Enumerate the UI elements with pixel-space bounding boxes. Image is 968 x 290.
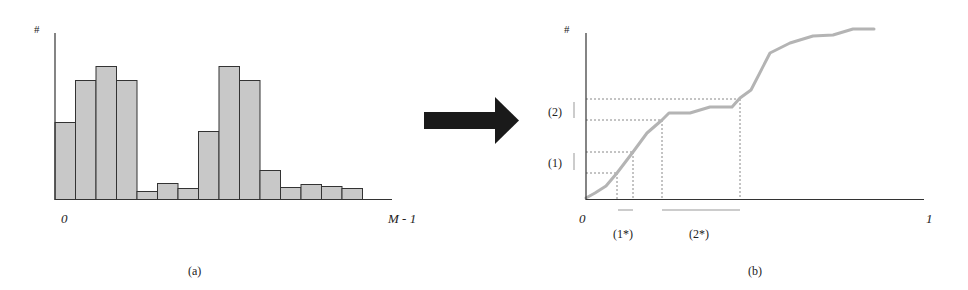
y-label-b: #: [564, 23, 570, 35]
x-end-label-b: 1: [926, 211, 933, 226]
interval-label-1: (1): [548, 156, 562, 170]
interval-label-2star: (2*): [689, 227, 709, 241]
figure-canvas: # 0 M - 1 (a) (2) (1) (1*) (2: [0, 0, 968, 290]
histogram-bar: [55, 123, 76, 200]
interval-label-1star: (1*): [613, 227, 633, 241]
histogram-bar: [199, 132, 220, 200]
histogram-bar: [281, 188, 302, 200]
x-start-label-a: 0: [61, 211, 68, 226]
cdf-curve: [586, 29, 874, 198]
histogram-panel: # 0 M - 1 (a): [34, 23, 416, 278]
transform-arrow-icon: [424, 97, 519, 144]
cumulative-panel: (2) (1) (1*) (2*) # 0 1 (b): [548, 23, 933, 278]
histogram-bar: [158, 184, 179, 200]
histogram-bar: [322, 187, 343, 200]
caption-a: (a): [188, 264, 201, 278]
x-end-label-a: M - 1: [387, 211, 416, 226]
histogram-bar: [96, 67, 117, 200]
histogram-bar: [178, 189, 199, 200]
histogram-bar: [240, 81, 261, 200]
histogram-bar: [137, 192, 158, 200]
histogram-bar: [301, 185, 322, 200]
histogram-bar: [219, 67, 240, 200]
y-label-a: #: [34, 23, 40, 35]
x-start-label-b: 0: [579, 211, 586, 226]
interval-label-2: (2): [548, 105, 562, 119]
histogram-bar: [117, 81, 138, 200]
histogram-bar: [342, 189, 363, 200]
histogram-bar: [260, 171, 281, 200]
caption-b: (b): [748, 264, 762, 278]
histogram-bar: [76, 81, 97, 200]
histogram-bars: [55, 67, 363, 200]
